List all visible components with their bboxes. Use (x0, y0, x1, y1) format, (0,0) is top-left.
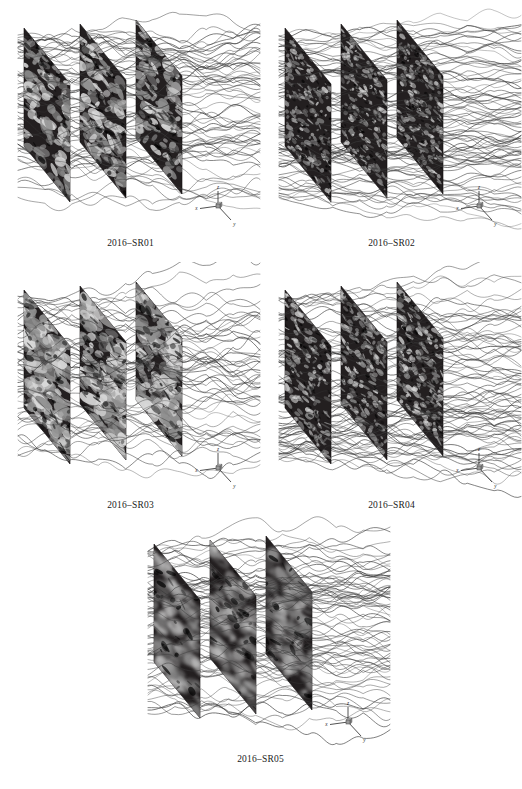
axis-label-y: y (493, 483, 497, 489)
panel-sr02-plot: zxy (261, 0, 522, 260)
axis-triad: zxy (194, 446, 236, 489)
axis-label-z: z (216, 446, 219, 452)
panel-sr03: zxy2016–SR03 (0, 262, 261, 522)
axis-label-y: y (232, 483, 236, 489)
panel-sr05-caption: 2016–SR05 (130, 754, 391, 764)
axis-triad: zxy (455, 446, 497, 489)
panel-sr01-plot: zxy (0, 0, 261, 260)
multi-panel-figure: zxy2016–SR01zxy2016–SR02zxy2016–SR03zxy2… (0, 0, 522, 789)
panel-sr03-plot: zxy (0, 262, 261, 522)
panel-sr02: zxy2016–SR02 (261, 0, 522, 260)
axis-label-z: z (216, 184, 219, 190)
panel-sr04: zxy2016–SR04 (261, 262, 522, 522)
panel-sr02-caption: 2016–SR02 (261, 238, 522, 248)
axis-label-x: x (324, 721, 328, 727)
panel-sr01-caption: 2016–SR01 (0, 238, 261, 248)
panel-sr05: zxy2016–SR05 (130, 516, 391, 776)
slice-plane-1 (280, 290, 334, 464)
axis-label-y: y (232, 221, 236, 227)
panel-sr04-plot: zxy (261, 262, 522, 522)
slice-plane-2 (339, 24, 390, 199)
panel-sr03-caption: 2016–SR03 (0, 500, 261, 510)
axis-label-z: z (477, 184, 480, 190)
axis-label-z: z (346, 700, 349, 706)
axis-label-x: x (194, 205, 198, 211)
slice-plane-1 (145, 544, 209, 724)
axis-label-z: z (477, 446, 480, 452)
panel-sr01: zxy2016–SR01 (0, 0, 261, 260)
panel-sr05-plot: zxy (130, 516, 391, 776)
panel-sr04-caption: 2016–SR04 (261, 500, 522, 510)
axis-label-y: y (362, 737, 366, 743)
